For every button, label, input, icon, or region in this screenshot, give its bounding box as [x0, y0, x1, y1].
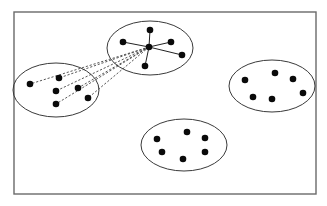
node: [269, 96, 276, 103]
node: [180, 156, 187, 163]
node: [53, 101, 60, 108]
node: [120, 39, 127, 46]
node: [75, 85, 82, 92]
node: [242, 77, 249, 84]
node: [53, 88, 60, 95]
node: [56, 75, 63, 82]
cluster-diagram: [0, 0, 327, 206]
node: [179, 52, 186, 59]
node: [27, 81, 34, 88]
node: [250, 94, 257, 101]
node: [147, 27, 154, 34]
node: [272, 70, 279, 77]
node: [85, 95, 92, 102]
node: [159, 149, 166, 156]
node: [202, 135, 209, 142]
node: [184, 129, 191, 136]
node: [154, 136, 161, 143]
hub-node: [146, 44, 153, 51]
node: [202, 149, 209, 156]
node: [142, 63, 149, 70]
node: [168, 39, 175, 46]
node: [300, 90, 307, 97]
diagram-frame: [14, 12, 316, 194]
node: [290, 76, 297, 83]
